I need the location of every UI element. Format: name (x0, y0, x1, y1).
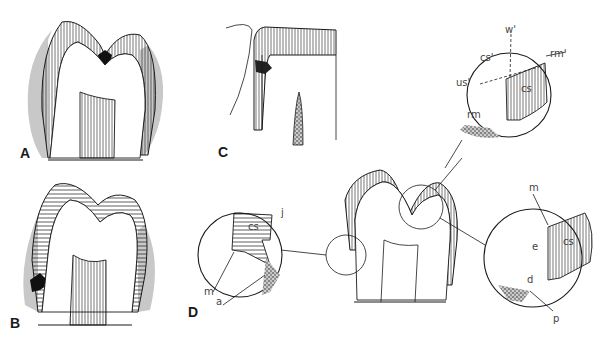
label-m: m (204, 286, 214, 297)
inset-left: cs j m a (198, 207, 284, 307)
inset-bottom-right: m e cs d p (484, 182, 592, 324)
label-cs: cs (563, 236, 574, 247)
label-w-prime: w' (505, 24, 516, 35)
label-cs-prime: cs' (480, 52, 493, 63)
gingiva-outline (226, 24, 252, 115)
panel-label-b: B (10, 315, 20, 331)
label-p: p (553, 313, 559, 324)
label-a: a (216, 296, 222, 307)
label-d: d (527, 274, 533, 285)
dentin-outline (355, 182, 450, 300)
pointer-line-left (281, 250, 326, 255)
label-m: m (529, 182, 539, 193)
pulp-canal (293, 92, 303, 145)
lesion-area (460, 125, 500, 138)
panel-b: B (10, 184, 155, 331)
label-cs: cs (248, 221, 259, 232)
pulp (80, 92, 115, 158)
panel-c: C (218, 24, 336, 160)
panel-label-a: A (20, 145, 30, 161)
label-rm-prime: rm' (550, 48, 566, 59)
label-cs: cs (521, 83, 532, 94)
panel-label-d: D (188, 304, 198, 320)
label-us-prime: us' (456, 77, 470, 88)
label-rm: rm (467, 109, 481, 120)
label-e: e (532, 241, 538, 252)
dental-figure: A B C D cs (0, 0, 613, 338)
panel-a: A (20, 21, 163, 161)
panel-label-c: C (218, 144, 228, 160)
inset-top-right: w' rm' cs' us' cs rm (445, 24, 566, 168)
lesion-area (262, 258, 280, 295)
label-j: j (280, 207, 284, 218)
cervical-lesion (255, 60, 272, 74)
pulp (70, 255, 106, 325)
lesion-area (498, 285, 530, 302)
